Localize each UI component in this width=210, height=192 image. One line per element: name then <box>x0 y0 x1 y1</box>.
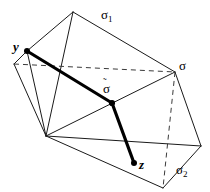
label-sigma: σ <box>179 59 186 72</box>
edge-apex-to-sigma <box>73 12 175 72</box>
vertex-dot-z <box>131 160 137 166</box>
label-sigma-base: σ <box>179 58 186 73</box>
vertex-dot-y <box>24 48 30 54</box>
label-sigma-2: σ2 <box>176 163 188 176</box>
edge-dashed-left-to-sigma <box>14 64 175 72</box>
vertex-dot-sigma-tilde <box>109 100 115 106</box>
label-sigma-2-base: σ <box>176 162 183 177</box>
label-sigma-2-subscript: 2 <box>183 169 188 179</box>
label-sigma-1: σ1 <box>101 8 113 21</box>
label-y: y <box>13 40 19 53</box>
figure-container: σ1 σ σ2 ˜ σ y z <box>0 0 210 192</box>
label-z: z <box>139 158 144 171</box>
thick-segment-sigmatilde-to-z <box>112 103 134 163</box>
label-sigma-tilde: σ <box>103 82 110 95</box>
label-sigma-tilde-base: σ <box>103 81 110 96</box>
edge-left-to-bottomleft <box>14 64 46 136</box>
edge-apex-to-bottomleft <box>46 12 73 136</box>
edge-y-to-bottomleft <box>27 51 46 136</box>
thick-segment-y-to-sigmatilde <box>27 51 112 103</box>
edge-bottomleft-to-bottom <box>46 136 163 188</box>
edge-sigma-to-right <box>175 72 201 146</box>
label-sigma-1-base: σ <box>101 7 108 22</box>
edge-dashed-sigma-to-bottom <box>163 72 175 188</box>
label-sigma-1-subscript: 1 <box>108 14 113 24</box>
